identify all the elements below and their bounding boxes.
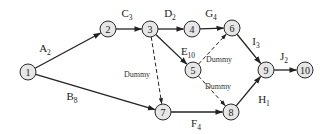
edge-1-7 — [36, 74, 155, 109]
edge-4-6 — [200, 28, 224, 29]
activity-duration: 3 — [129, 13, 133, 22]
node-label: 5 — [191, 65, 196, 76]
node-9: 9 — [258, 62, 274, 78]
node-1: 1 — [20, 64, 36, 80]
activity-label-i: I3 — [252, 35, 260, 50]
network-diagram: A2B8C3D2G4E10I3J2H1F4DummyDummyDummy 123… — [0, 0, 332, 134]
activity-label-e: E10 — [181, 45, 195, 60]
activity-label-b: B8 — [66, 90, 77, 105]
node-label: 9 — [264, 65, 269, 76]
node-label: 2 — [106, 24, 111, 35]
node-label: 1 — [26, 67, 31, 78]
node-4: 4 — [184, 21, 200, 37]
node-7: 7 — [155, 104, 171, 120]
activity-duration: 2 — [284, 56, 288, 65]
node-2: 2 — [100, 21, 116, 37]
activity-label-f: F4 — [191, 117, 201, 132]
activity-name: B — [66, 90, 73, 102]
node-10: 10 — [297, 62, 313, 78]
activity-label-c: C3 — [121, 7, 132, 22]
node-6: 6 — [224, 20, 240, 36]
node-label: 3 — [148, 24, 153, 35]
activity-duration: 4 — [197, 123, 201, 132]
node-label: 4 — [190, 24, 195, 35]
activity-name: G — [205, 7, 213, 19]
node-label: 6 — [230, 23, 235, 34]
activity-name: D — [164, 7, 172, 19]
activity-duration: 3 — [256, 41, 260, 50]
activity-label-h: H1 — [258, 93, 270, 108]
activity-label-g: G4 — [205, 7, 217, 22]
node-3: 3 — [142, 21, 158, 37]
node-label: 7 — [161, 107, 166, 118]
node-8: 8 — [223, 104, 239, 120]
activity-name: C — [121, 7, 128, 19]
activity-duration: 4 — [213, 13, 217, 22]
node-label: 8 — [229, 107, 234, 118]
node-5: 5 — [185, 62, 201, 78]
activity-duration: 2 — [172, 13, 176, 22]
activity-label-a: A2 — [39, 42, 51, 57]
activity-label-d: D2 — [164, 7, 176, 22]
activity-duration: 2 — [47, 48, 51, 57]
activity-duration: 10 — [188, 51, 196, 60]
activity-name: A — [39, 42, 47, 54]
activity-label-j: J2 — [280, 50, 288, 65]
node-label: 10 — [300, 65, 310, 76]
activity-name: H — [258, 93, 266, 105]
dummy-label: Dummy — [205, 82, 231, 91]
network-diagram-svg: A2B8C3D2G4E10I3J2H1F4DummyDummyDummy 123… — [0, 0, 332, 134]
dummy-label: Dummy — [124, 70, 150, 79]
edge-3-7-dummy — [151, 37, 161, 104]
dummy-label: Dummy — [206, 55, 232, 64]
activity-duration: 1 — [266, 99, 270, 108]
activity-duration: 8 — [74, 96, 78, 105]
edge-8-9 — [236, 77, 260, 106]
